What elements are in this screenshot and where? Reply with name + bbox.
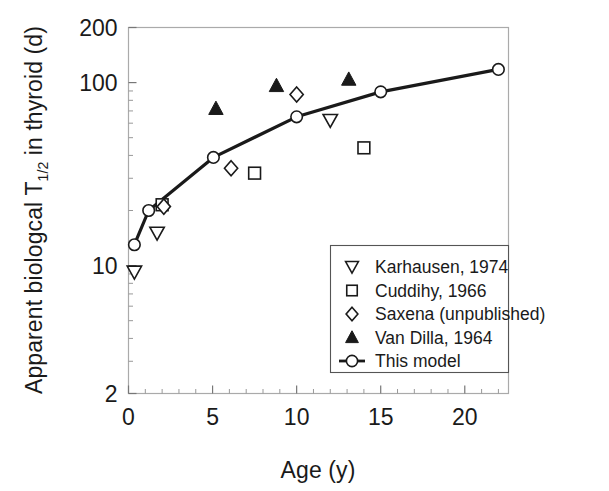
data-point-marker [224, 161, 237, 176]
data-point-marker [323, 114, 337, 127]
legend-label: Van Dilla, 1964 [375, 328, 493, 348]
legend-label: Karhausen, 1974 [375, 257, 509, 277]
data-point-marker [208, 152, 220, 164]
chart-figure: 05101520210100200 Age (y) Apparent biolo… [0, 0, 609, 491]
x-tick-label: 0 [122, 404, 135, 430]
data-point-marker [290, 87, 303, 102]
data-point-marker [127, 266, 141, 279]
data-point-marker [269, 78, 283, 91]
series-line [134, 69, 498, 244]
x-tick-label: 10 [284, 404, 310, 430]
data-point-marker [209, 101, 223, 114]
data-point-marker [249, 167, 261, 179]
legend: Karhausen, 1974Cuddihy, 1966Saxena (unpu… [331, 246, 546, 373]
model-line [134, 69, 498, 244]
legend-label: Cuddihy, 1966 [375, 281, 487, 301]
data-point-marker [129, 239, 141, 251]
y-tick-label: 100 [79, 70, 117, 96]
y-axis-title: Apparent biologcal T1/2 in thyroid (d) [21, 26, 51, 394]
data-point-marker [143, 205, 155, 217]
y-tick-label: 10 [92, 253, 118, 279]
data-point-marker [150, 227, 164, 240]
legend-label: This model [375, 351, 461, 371]
x-tick-label: 5 [206, 404, 219, 430]
data-point-marker [342, 72, 356, 85]
data-point-marker [493, 64, 505, 76]
data-point-marker [375, 86, 387, 98]
y-tick-label: 2 [105, 381, 118, 407]
x-tick-label: 15 [368, 404, 394, 430]
x-axis-title: Age (y) [281, 457, 356, 483]
data-point-marker [291, 111, 303, 123]
y-tick-label: 200 [79, 15, 117, 41]
chart-canvas: 05101520210100200 Age (y) Apparent biolo… [0, 0, 609, 491]
x-tick-label: 20 [452, 404, 478, 430]
data-point-marker [358, 142, 370, 154]
legend-label: Saxena (unpublished) [375, 304, 545, 324]
